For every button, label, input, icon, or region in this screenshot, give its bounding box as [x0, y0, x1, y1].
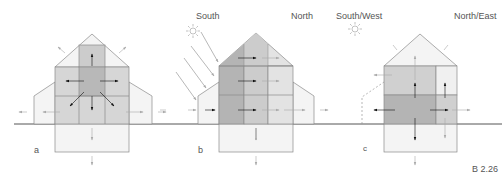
panel-label-a: a	[34, 145, 39, 155]
orientation-label-north: North	[291, 11, 313, 21]
figure-number: B 2.26	[472, 164, 498, 174]
orientation-label-south-west: South/West	[336, 11, 382, 21]
sun-icon	[186, 24, 200, 38]
orientation-label-north-east: North/East	[454, 11, 497, 21]
panel-c-house	[362, 34, 470, 165]
panel-b-house	[160, 32, 328, 165]
orientation-label-south: South	[196, 11, 220, 21]
diagram-canvas	[0, 0, 502, 181]
panel-label-c: c	[363, 144, 367, 153]
panel-label-b: b	[198, 145, 203, 155]
sun-icon	[348, 22, 362, 36]
panel-a-house	[19, 34, 166, 165]
